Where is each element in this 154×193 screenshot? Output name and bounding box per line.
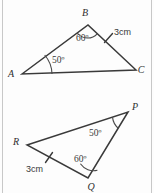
geometry-diagram-canvas: B A C 60º 50º 3cm P R Q 50º 60º — [0, 0, 154, 193]
side-label-bc: 3cm — [114, 27, 131, 37]
vertex-label-q: Q — [87, 181, 95, 192]
side-label-rq: 3cm — [26, 164, 43, 174]
side-tick-bc — [105, 34, 113, 43]
vertex-label-a: A — [7, 68, 15, 79]
triangle-pqr-group: P R Q 50º 60º 3cm — [12, 101, 138, 192]
vertex-label-c: C — [138, 64, 145, 75]
angle-arc-p — [113, 117, 119, 128]
vertex-label-r: R — [12, 136, 19, 147]
angle-label-q: 60º — [74, 154, 87, 164]
angle-arc-a — [45, 55, 52, 74]
angle-label-p: 50º — [89, 128, 102, 138]
diagram-svg: B A C 60º 50º 3cm P R Q 50º 60º — [0, 0, 154, 193]
vertex-label-p: P — [131, 101, 138, 112]
angle-label-b: 60º — [76, 33, 89, 43]
angle-label-a: 50º — [52, 55, 65, 65]
triangle-abc-group: B A C 60º 50º 3cm — [7, 7, 145, 79]
vertex-label-b: B — [82, 7, 88, 18]
